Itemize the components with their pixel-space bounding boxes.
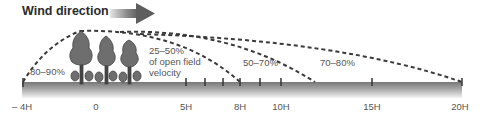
wind-direction-title: Wind direction [22, 4, 109, 18]
zone-label-lee3: 70–80% [320, 57, 355, 68]
ground-bar [22, 82, 462, 98]
windbreak-diagram: Wind direction 80–90% 25–50% of open fie… [0, 0, 480, 115]
axis-label-8h: 8H [234, 101, 246, 112]
axis-label-5h: 5H [180, 101, 192, 112]
zone-label-lee1-line1: 25–50% [149, 45, 201, 56]
axis-label-10h: 10H [272, 101, 289, 112]
zone-label-windward: 80–90% [30, 66, 65, 77]
zone-label-lee1-line3: velocity [149, 67, 201, 78]
axis-label-0: 0 [93, 101, 98, 112]
zone-label-lee2: 50–70% [243, 57, 278, 68]
axis-label-15h: 15H [363, 101, 380, 112]
windbreak-trees-icon [70, 31, 141, 84]
wind-arrow-icon [110, 3, 155, 24]
zone-label-lee1: 25–50% of open field velocity [149, 45, 201, 78]
zone-label-lee1-line2: of open field [149, 56, 201, 67]
axis-label-20h: 20H [451, 101, 468, 112]
axis-label-minus4h: – 4H [12, 101, 32, 112]
